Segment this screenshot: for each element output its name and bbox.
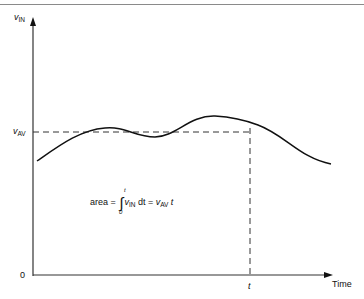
area-formula: area = ∫vIN dt = vAV t xyxy=(90,194,173,211)
formula-prefix: area = xyxy=(90,197,118,207)
time-tick-label: t xyxy=(248,282,251,291)
integral-upper-limit: t xyxy=(124,187,126,193)
y-axis-arrow-icon xyxy=(30,17,36,26)
formula-differential: dt = xyxy=(135,197,155,207)
integral-lower-limit: 0 xyxy=(119,209,122,215)
formula-result-suffix: t xyxy=(168,197,173,207)
y-axis-label: vIN xyxy=(14,13,25,24)
vin-signal-curve xyxy=(37,116,331,164)
average-label: vAV xyxy=(13,127,26,138)
x-axis-label: Time xyxy=(332,280,352,289)
diagram-canvas xyxy=(0,0,364,299)
origin-label: 0 xyxy=(20,271,25,280)
average-label-sub: AV xyxy=(18,130,26,137)
y-axis-label-sub: IN xyxy=(19,16,26,23)
x-axis-arrow-icon xyxy=(324,272,333,278)
